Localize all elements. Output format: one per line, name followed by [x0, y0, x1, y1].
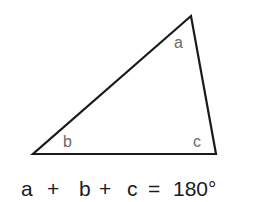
angle-label-c: c: [193, 133, 201, 150]
angle-label-a: a: [174, 34, 183, 51]
angle-sum-equation: a + b + c = 180°: [21, 177, 216, 200]
equation-term-a: a: [21, 177, 33, 200]
triangle-figure: a b c a + b + c = 180°: [0, 0, 255, 202]
equation-equals: =: [148, 177, 160, 200]
angle-label-b: b: [63, 133, 72, 150]
equation-value: 180°: [173, 177, 216, 200]
equation-plus-2: +: [99, 177, 111, 200]
equation-term-b: b: [79, 177, 91, 200]
triangle-diagram: a b c a + b + c = 180°: [0, 0, 255, 202]
equation-term-c: c: [127, 177, 138, 200]
triangle-shape: [33, 16, 216, 154]
equation-plus-1: +: [47, 177, 59, 200]
